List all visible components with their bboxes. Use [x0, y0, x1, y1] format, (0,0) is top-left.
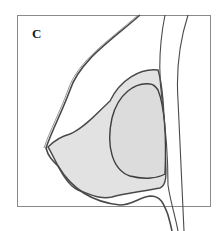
chest-wall-outer	[177, 15, 188, 231]
panel-label: C	[32, 27, 41, 40]
